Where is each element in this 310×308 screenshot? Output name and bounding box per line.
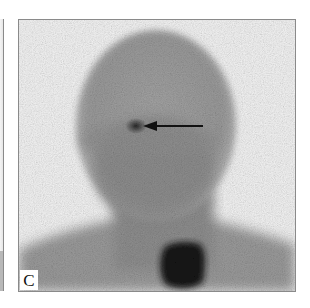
scan-image: [19, 20, 295, 291]
previous-panel-edge: [0, 19, 4, 291]
panel-label-box: C: [20, 270, 38, 290]
previous-panel-shade: [0, 251, 3, 291]
thyroid-uptake: [160, 242, 204, 288]
scan-panel-c: C: [18, 19, 296, 292]
panel-label: C: [23, 272, 34, 289]
